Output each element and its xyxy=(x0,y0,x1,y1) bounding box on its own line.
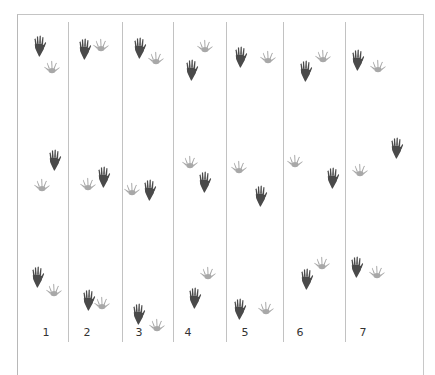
column-label: 5 xyxy=(242,327,249,338)
column-label: 3 xyxy=(136,327,143,338)
light-pawprint-icon xyxy=(80,177,97,191)
column-divider xyxy=(226,22,227,342)
dark-handprint-icon xyxy=(97,166,111,188)
light-pawprint-icon xyxy=(93,38,110,52)
light-pawprint-icon xyxy=(352,163,369,177)
light-pawprint-icon xyxy=(34,178,51,192)
light-pawprint-icon xyxy=(148,51,165,65)
dark-handprint-icon xyxy=(143,179,157,201)
dark-handprint-icon xyxy=(78,38,92,60)
dark-handprint-icon xyxy=(198,171,212,193)
light-pawprint-icon xyxy=(369,265,386,279)
dark-handprint-icon xyxy=(133,37,147,59)
dark-handprint-icon xyxy=(326,167,340,189)
column-divider xyxy=(345,22,346,342)
column-divider xyxy=(283,22,284,342)
light-pawprint-icon xyxy=(149,318,166,332)
dark-handprint-icon xyxy=(188,287,202,309)
light-pawprint-icon xyxy=(200,266,217,280)
dark-handprint-icon xyxy=(48,149,62,171)
light-pawprint-icon xyxy=(197,39,214,53)
dark-handprint-icon xyxy=(185,59,199,81)
dark-handprint-icon xyxy=(33,35,47,57)
light-pawprint-icon xyxy=(258,301,275,315)
column-label: 1 xyxy=(43,327,50,338)
column-label: 4 xyxy=(185,327,192,338)
column-divider xyxy=(173,22,174,342)
light-pawprint-icon xyxy=(370,59,387,73)
light-pawprint-icon xyxy=(182,155,199,169)
light-pawprint-icon xyxy=(231,160,248,174)
light-pawprint-icon xyxy=(287,154,304,168)
dark-handprint-icon xyxy=(390,137,404,159)
dark-handprint-icon xyxy=(234,46,248,68)
light-pawprint-icon xyxy=(314,256,331,270)
column-divider xyxy=(68,22,69,342)
light-pawprint-icon xyxy=(94,296,111,310)
column-label: 7 xyxy=(360,327,367,338)
dark-handprint-icon xyxy=(254,185,268,207)
dark-handprint-icon xyxy=(350,256,364,278)
column-label: 2 xyxy=(84,327,91,338)
dark-handprint-icon xyxy=(299,60,313,82)
light-pawprint-icon xyxy=(260,50,277,64)
dark-handprint-icon xyxy=(351,49,365,71)
light-pawprint-icon xyxy=(315,49,332,63)
light-pawprint-icon xyxy=(46,283,63,297)
dark-handprint-icon xyxy=(300,268,314,290)
dark-handprint-icon xyxy=(132,303,146,325)
dark-handprint-icon xyxy=(31,266,45,288)
dark-handprint-icon xyxy=(233,298,247,320)
light-pawprint-icon xyxy=(44,60,61,74)
light-pawprint-icon xyxy=(124,182,141,196)
column-label: 6 xyxy=(297,327,304,338)
